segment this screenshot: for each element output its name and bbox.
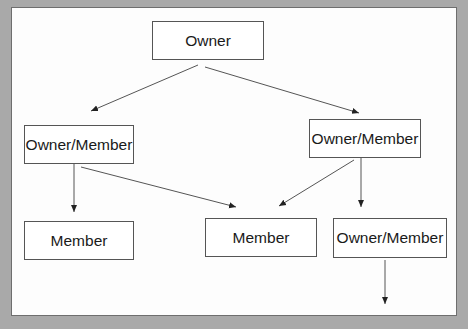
node-label: Owner/Member xyxy=(312,130,419,148)
node-member-left: Member xyxy=(24,221,134,260)
node-label: Owner xyxy=(185,32,231,50)
node-owner: Owner xyxy=(152,21,264,60)
node-label: Owner/Member xyxy=(26,136,133,154)
node-owner-member-bottom-right: Owner/Member xyxy=(333,218,447,258)
node-owner-member-left: Owner/Member xyxy=(24,125,134,164)
node-member-middle: Member xyxy=(205,218,317,257)
node-owner-member-right: Owner/Member xyxy=(309,119,421,158)
node-label: Owner/Member xyxy=(337,229,444,247)
node-label: Member xyxy=(233,229,290,247)
node-label: Member xyxy=(51,232,108,250)
